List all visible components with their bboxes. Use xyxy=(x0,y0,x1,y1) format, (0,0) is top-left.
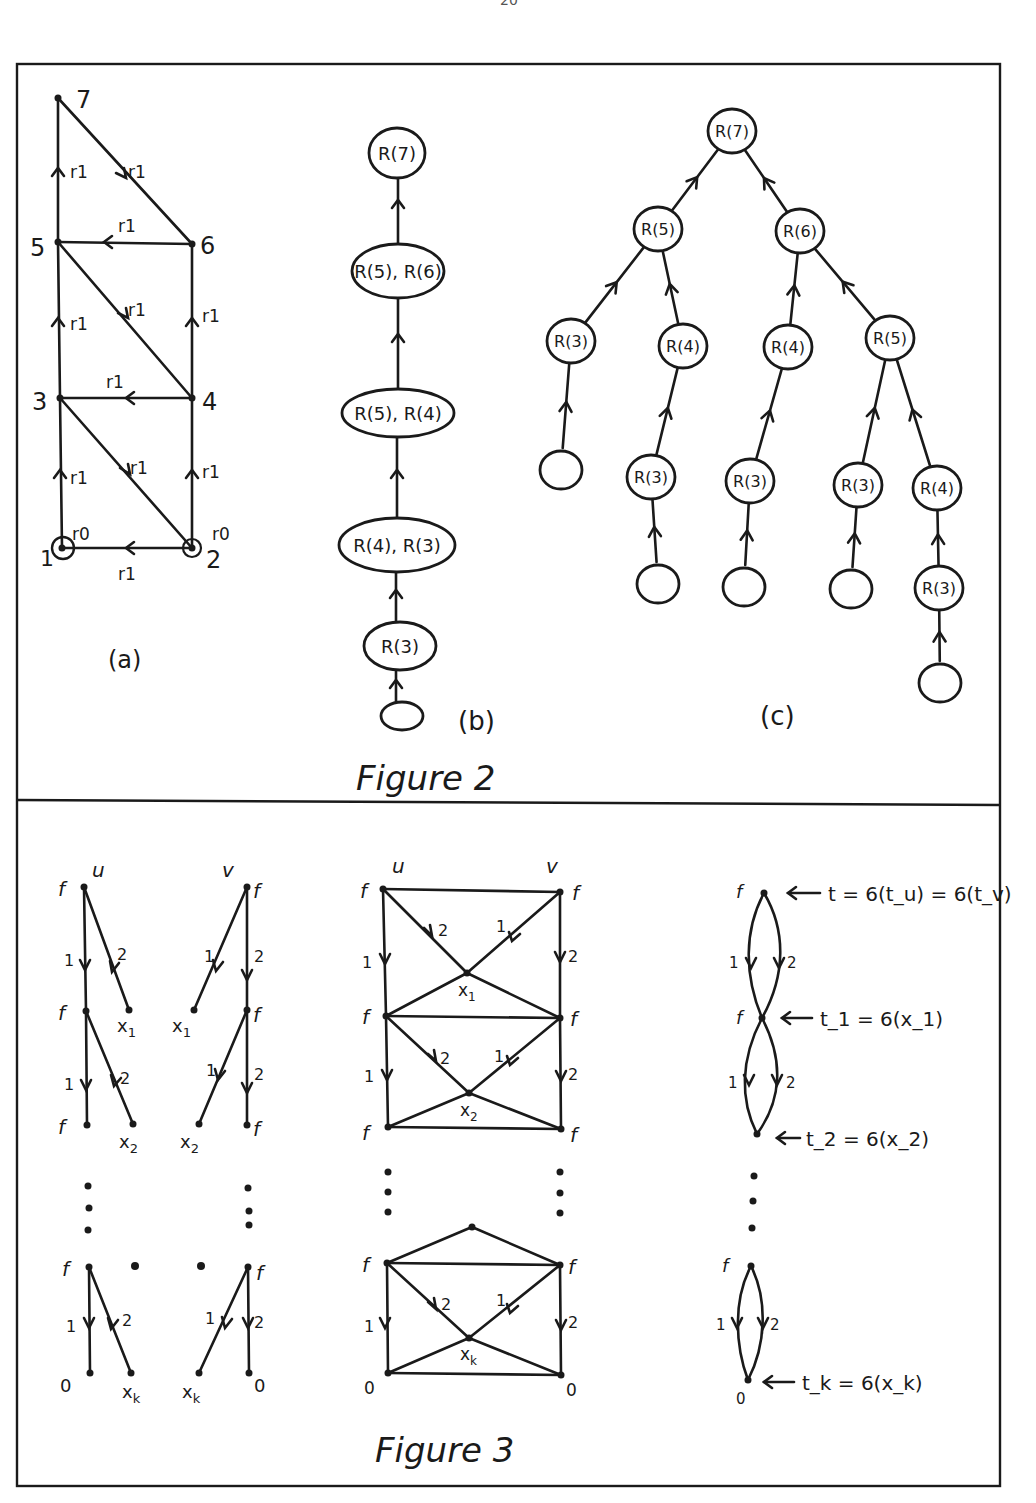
tree-node-label: R(3) xyxy=(554,332,588,351)
figure2-caption: Figure 2 xyxy=(356,758,495,798)
label-f: f xyxy=(722,1255,731,1276)
tree-edge xyxy=(663,251,679,325)
label-zero: 0 xyxy=(254,1375,265,1396)
label-zero: 0 xyxy=(364,1378,375,1398)
label-f: f xyxy=(58,877,68,901)
edge-label-1: 1 xyxy=(364,1317,374,1336)
tree-node-label: R(5), R(4) xyxy=(354,403,441,424)
edge-label-1: 1 xyxy=(206,1061,216,1080)
edge-label-1: 1 xyxy=(728,1074,738,1092)
edge-label-1: 1 xyxy=(494,1047,504,1066)
edge-label-1: 1 xyxy=(362,953,372,972)
label-zero: 0 xyxy=(60,1375,71,1396)
edge-label-1: 1 xyxy=(66,1317,76,1336)
edge-label-2: 2 xyxy=(568,1065,578,1084)
edge-label-2: 2 xyxy=(787,954,797,972)
edge-label-2: 2 xyxy=(117,945,127,964)
panel-label-c: (c) xyxy=(760,701,795,731)
label-f: f xyxy=(253,1003,263,1027)
edge-label: r1 xyxy=(118,216,136,236)
edge-label-2: 2 xyxy=(568,1313,578,1332)
node-label-5: 5 xyxy=(30,234,45,262)
tree-edge xyxy=(937,510,938,566)
tree-node-label: R(5), R(6) xyxy=(354,261,441,282)
figure-canvas: 1 2 3 4 5 6 7 r1 r1 r1 r1 r1 r1 r1 r1 r1… xyxy=(0,0,1036,1503)
tree-leaf-empty xyxy=(637,565,679,603)
edge-label: r1 xyxy=(128,162,146,182)
tree-edge xyxy=(656,367,678,455)
edge-label-1: 1 xyxy=(496,917,506,936)
edge-label-2: 2 xyxy=(568,947,578,966)
node-label-2: 2 xyxy=(206,546,221,574)
edge-label-2: 2 xyxy=(441,1295,451,1314)
label-f: f xyxy=(572,881,582,905)
label-x1: x1 xyxy=(117,1015,136,1040)
tree-edge xyxy=(814,248,876,321)
label-x2: x2 xyxy=(180,1131,199,1156)
node-label-4: 4 xyxy=(202,388,217,416)
tree-node-label: R(4) xyxy=(666,337,700,356)
figure3-right-graph: f f f 1 2 1 2 1 2 0 t = 6(t_u) = 6(t_v) … xyxy=(716,881,1012,1408)
edge-label: r1 xyxy=(202,306,220,326)
edge-label-2: 2 xyxy=(770,1316,780,1334)
label-v: v xyxy=(546,854,559,878)
label-f: f xyxy=(360,879,370,903)
tree-edge xyxy=(897,359,931,467)
outer-frame xyxy=(17,64,1000,1486)
node-label-7: 7 xyxy=(76,86,91,114)
tree-node-label: R(3) xyxy=(381,636,419,657)
loop-label: r0 xyxy=(212,524,230,544)
annotation-tk: t_k = 6(x_k) xyxy=(802,1371,923,1395)
edge-label-1: 1 xyxy=(496,1291,506,1310)
figure2-panel-b: R(7) R(5), R(6) R(5), R(4) R(4), R(3) R(… xyxy=(339,128,495,736)
label-f: f xyxy=(570,1007,580,1031)
figure-divider xyxy=(17,800,1000,805)
edge-label-1: 1 xyxy=(205,1309,215,1328)
label-f: f xyxy=(58,1115,68,1139)
figure2-panel-a: 1 2 3 4 5 6 7 r1 r1 r1 r1 r1 r1 r1 r1 r1… xyxy=(30,86,230,674)
label-f: f xyxy=(256,1261,266,1285)
panel-label-b: (b) xyxy=(458,706,495,736)
label-x2: x2 xyxy=(119,1131,138,1156)
label-f: f xyxy=(736,1007,745,1028)
figure2-panel-c: R(7)R(5)R(6)R(3)R(4)R(4)R(5)R(3)R(3)R(3)… xyxy=(540,109,963,731)
tree-edge xyxy=(756,368,782,460)
edge-label: r1 xyxy=(130,458,148,478)
edge-label-2: 2 xyxy=(440,1049,450,1068)
edge-label-1: 1 xyxy=(716,1316,726,1334)
tree-node-label: R(3) xyxy=(634,468,668,487)
label-xk: xk xyxy=(182,1381,201,1406)
tree-edge xyxy=(863,359,886,463)
tree-node-label: R(5) xyxy=(641,220,675,239)
edge-label-2: 2 xyxy=(254,1065,264,1084)
label-f: f xyxy=(568,1255,578,1279)
panel-label-a: (a) xyxy=(108,646,141,674)
label-f: f xyxy=(362,1253,372,1277)
edge-label-2: 2 xyxy=(254,947,264,966)
annotation-t2: t_2 = 6(x_2) xyxy=(806,1127,929,1151)
label-xk: xk xyxy=(122,1381,141,1406)
tree-leaf-empty xyxy=(830,570,872,608)
tree-node-label: R(7) xyxy=(715,122,749,141)
node-label-6: 6 xyxy=(200,232,215,260)
edge-label-1: 1 xyxy=(729,954,739,972)
edge-label: r1 xyxy=(70,314,88,334)
tree-edge xyxy=(584,246,644,323)
tree-node-label: R(4) xyxy=(771,338,805,357)
tree-leaf-empty xyxy=(540,451,582,489)
label-u: u xyxy=(392,854,405,878)
label-f: f xyxy=(570,1123,580,1147)
edge-label-1: 1 xyxy=(364,1067,374,1086)
label-f: f xyxy=(253,1117,263,1141)
annotation-t1: t_1 = 6(x_1) xyxy=(820,1007,943,1031)
label-zero: 0 xyxy=(736,1390,746,1408)
edge-label-2: 2 xyxy=(120,1069,130,1088)
label-f: f xyxy=(736,881,745,902)
label-x2: x2 xyxy=(460,1100,478,1124)
tree-node-label: R(3) xyxy=(841,476,875,495)
label-v: v xyxy=(222,858,235,882)
label-f: f xyxy=(62,1257,72,1281)
edge-label: r1 xyxy=(70,468,88,488)
tree-leaf-empty xyxy=(919,664,961,702)
edge-label-1: 1 xyxy=(64,951,74,970)
